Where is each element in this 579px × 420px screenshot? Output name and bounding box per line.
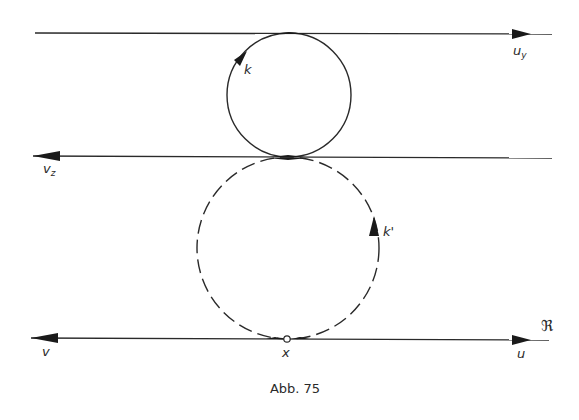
orientation-arrow-k-prime-icon: [369, 216, 379, 236]
label-k: k: [244, 62, 252, 77]
arrow-right-icon: [512, 29, 531, 39]
label-v-z: vz: [43, 161, 56, 178]
arrow-right-icon: [512, 335, 531, 345]
label-u: u: [517, 346, 525, 361]
tangent-mark-icon: [268, 158, 308, 160]
label-u-y: uy: [513, 43, 527, 60]
label-x: x: [281, 345, 290, 360]
circle-k-prime: [197, 157, 379, 339]
label-fraktur-r: ℜ: [541, 317, 554, 335]
point-x-marker: [284, 336, 290, 342]
circle-k: [227, 33, 351, 157]
label-k-prime: k': [383, 224, 394, 239]
label-v: v: [42, 344, 50, 359]
diagram-canvas: uy vz v u k k' x ℜ Abb. 75: [0, 0, 579, 420]
arrow-left-icon: [31, 333, 58, 343]
figure-caption: Abb. 75: [270, 381, 320, 396]
arrow-left-icon: [33, 151, 60, 161]
